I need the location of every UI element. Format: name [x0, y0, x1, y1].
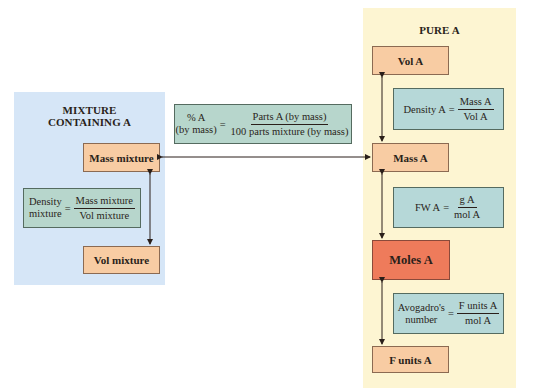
connector-arrows [0, 0, 533, 392]
